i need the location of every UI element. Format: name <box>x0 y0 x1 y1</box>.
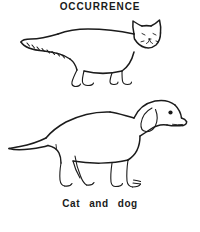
dog-fore-legs <box>111 160 141 187</box>
figure-caption: Cat and dog <box>0 198 200 210</box>
dog-illustration <box>0 88 200 194</box>
dog-eye-icon <box>168 110 172 114</box>
dog-ear <box>141 108 157 132</box>
cat-outline <box>21 29 134 73</box>
dog-outline <box>9 112 140 163</box>
dog-hip-mark <box>56 145 57 149</box>
cat-illustration <box>0 12 200 88</box>
cat-face-details <box>141 34 159 44</box>
dog-hind-legs <box>60 156 94 186</box>
illustration-page: OCCURRENCE <box>0 0 200 232</box>
